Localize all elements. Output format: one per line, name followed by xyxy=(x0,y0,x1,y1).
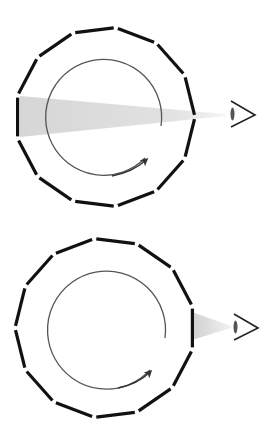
ring-segment xyxy=(56,239,92,253)
ring-segment xyxy=(158,160,184,189)
ring-segment xyxy=(139,245,171,267)
ring-segment xyxy=(96,412,134,417)
ring-segment xyxy=(173,270,191,304)
eye-icon xyxy=(231,101,256,127)
ring-segment xyxy=(96,239,134,244)
ring-segment xyxy=(139,389,171,411)
ring-segment xyxy=(158,45,184,74)
ring-segment xyxy=(185,77,194,115)
ring-segment xyxy=(118,28,154,42)
ring-segment xyxy=(27,256,53,285)
ring-segment xyxy=(56,403,92,417)
view-beam-narrow xyxy=(192,312,231,340)
eye-icon xyxy=(234,314,259,340)
ring-segment xyxy=(19,140,37,174)
bottom-panel xyxy=(16,239,258,417)
diagram-stage: Two panels: a segmented 13-gon ring with… xyxy=(0,0,278,440)
ring-segment xyxy=(16,288,25,326)
diagram-canvas xyxy=(0,0,278,440)
ring-segment xyxy=(75,28,113,33)
inner-rotation-circle xyxy=(48,271,166,389)
view-beam-wide xyxy=(20,96,225,137)
ring-segment xyxy=(75,201,113,206)
ring-segment xyxy=(19,59,37,93)
ring-segment xyxy=(39,34,71,56)
ring-segment xyxy=(27,371,53,400)
ring-segment xyxy=(39,178,71,200)
ring-segment xyxy=(118,192,154,206)
top-panel xyxy=(18,28,255,206)
ring-segment xyxy=(16,330,25,368)
ring-segment xyxy=(173,351,191,385)
ring-segment xyxy=(185,119,194,157)
